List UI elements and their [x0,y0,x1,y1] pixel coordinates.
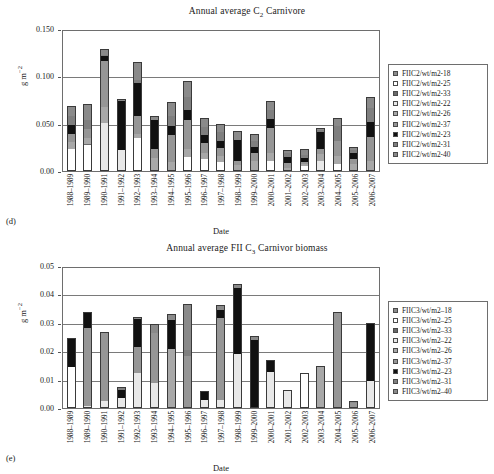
bar-segment [151,383,158,407]
legend-label: FIIC2/wt/m2-40 [402,150,450,159]
bar-slot [279,268,296,408]
legend-item[interactable]: FIIC3/wt/m2–18 [393,305,484,315]
bar-segment [134,347,141,373]
bar-segment [367,324,374,381]
bar-segment [217,132,224,141]
bar-segment [251,340,258,407]
bar-slot [346,268,363,408]
x-tick-slot: 1990–1991 [95,410,112,462]
bar-segment [284,168,291,170]
bar-segment [118,390,125,399]
legend-item[interactable]: FIIC3/wt/m2–26 [393,346,484,356]
legend-item[interactable]: FIIC3/wt/m2–23 [393,366,484,376]
bar-segment [184,97,191,110]
bar-segment [168,116,175,125]
y-tick-label: 0.150 [4,26,54,34]
bar-segment [234,140,241,161]
legend-item[interactable]: FIIC2/wt/m2-22 [393,99,484,109]
bar-segment [68,149,75,170]
bar-segment [84,406,91,407]
x-tick-label: 1997–1998 [216,411,225,443]
bar-segment [334,141,341,156]
legend-swatch-icon [393,152,398,157]
bar-slot [80,268,97,408]
bar-segment [217,148,224,156]
stacked-bar [349,147,358,171]
bar-segment [101,123,108,170]
stacked-bar [200,391,209,408]
bar-slot [213,268,230,408]
bar-slot [246,268,263,408]
x-tick-slot: 1999–2000 [246,173,263,225]
bar-segment [367,137,374,162]
bar-segment [84,145,91,170]
bar-segment [350,403,357,407]
y-tick-label: 0.00 [4,405,54,413]
legend-swatch-icon [393,328,398,333]
bar-slot [146,31,163,171]
legend-swatch-icon [393,389,398,394]
stacked-bar [167,314,176,408]
panel-label-d: (d) [6,216,16,226]
bar-segment [118,101,125,150]
y-tick-mark [58,30,61,31]
legend-item[interactable]: FIIC3/wt/m2–40 [393,387,484,397]
x-axis-ticks-d: 1988–19891989–19901990–19911991–19921992… [62,173,380,225]
x-tick-label: 1996–1997 [200,411,209,443]
bar-segment [201,159,208,170]
legend-item[interactable]: FIIC3/wt/m2–33 [393,325,484,335]
legend-label: FIIC2/wt/m2-31 [402,140,450,149]
legend-item[interactable]: FIIC3/wt/m2–37 [393,356,484,366]
panel-label-e: (e) [6,453,15,463]
legend-label: FIIC2/wt/m2-18 [402,69,450,78]
x-tick-label: 1994–1995 [166,174,175,206]
x-tick-label: 2001–2002 [283,411,292,443]
legend-item[interactable]: FIIC2/wt/m2-33 [393,88,484,98]
legend-item[interactable]: FIIC2/wt/m2-25 [393,78,484,88]
x-tick-slot: 2005–2006 [346,410,363,462]
x-tick-slot: 1996–1997 [196,410,213,462]
legend-swatch-icon [393,71,398,76]
legend-item[interactable]: FIIC2/wt/m2-37 [393,119,484,129]
bar-slot [63,268,80,408]
legend-label: FIIC3/wt/m2–22 [402,336,452,345]
legend-item[interactable]: FIIC3/wt/m2–31 [393,376,484,386]
bar-segment [84,328,91,406]
bar-group-e [63,268,379,408]
stacked-bar [266,360,275,408]
y-tick-mark [58,352,61,353]
bar-slot [96,268,113,408]
bar-segment [151,333,158,383]
bar-slot [163,268,180,408]
legend-swatch-icon [393,142,398,147]
legend-item[interactable]: FIIC3/wt/m2–22 [393,336,484,346]
x-tick-label: 1992–1993 [133,174,142,206]
stacked-bar [117,387,126,408]
bar-segment [168,135,175,162]
bar-slot [80,31,97,171]
legend-item[interactable]: FIIC2/wt/m2-26 [393,109,484,119]
legend-item[interactable]: FIIC3/wt/m2–25 [393,315,484,325]
x-tick-label: 1995–1996 [183,411,192,443]
bar-segment [334,126,341,140]
bar-segment [168,126,175,135]
y-tick-mark [58,172,61,173]
x-tick-label: 1990–1991 [99,411,108,443]
stacked-bar [183,81,192,171]
legend-item[interactable]: FIIC2/wt/m2-31 [393,139,484,149]
y-tick-mark [58,267,61,268]
bar-segment [334,119,341,127]
legend-item[interactable]: FIIC2/wt/m2-23 [393,129,484,139]
legend-item[interactable]: FIIC2/wt/m2-18 [393,68,484,78]
bar-slot [329,31,346,171]
stacked-bar [349,401,358,408]
x-tick-label: 1999–2000 [250,174,259,206]
x-tick-label: 1991–1992 [116,411,125,443]
legend-item[interactable]: FIIC2/wt/m2-40 [393,150,484,160]
bar-slot [179,268,196,408]
stacked-bar [250,336,259,408]
bar-segment [168,349,175,407]
legend-swatch-icon [393,369,398,374]
bar-segment [101,61,108,106]
stacked-bar [150,116,159,171]
